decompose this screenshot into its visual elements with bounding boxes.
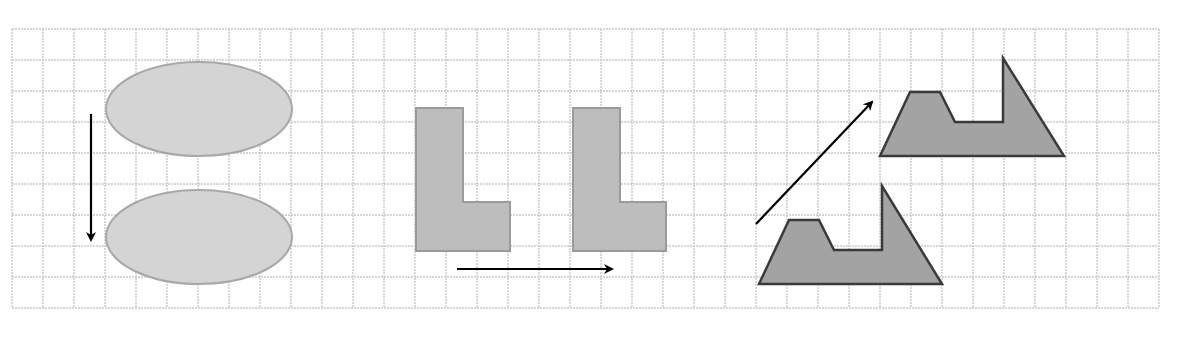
l-shape-translation-group: [416, 108, 666, 269]
translation-diagram: [0, 0, 1182, 353]
trapezoid-translation-group: [756, 58, 1064, 284]
ellipse-translation-group: [91, 62, 292, 284]
translated-l-shape: [573, 108, 666, 251]
translated-notched-trapezoid: [880, 58, 1064, 156]
translation-arrow-diagonal: [756, 102, 872, 224]
original-l-shape: [416, 108, 510, 251]
translated-ellipse: [106, 190, 292, 284]
original-ellipse: [106, 62, 292, 156]
